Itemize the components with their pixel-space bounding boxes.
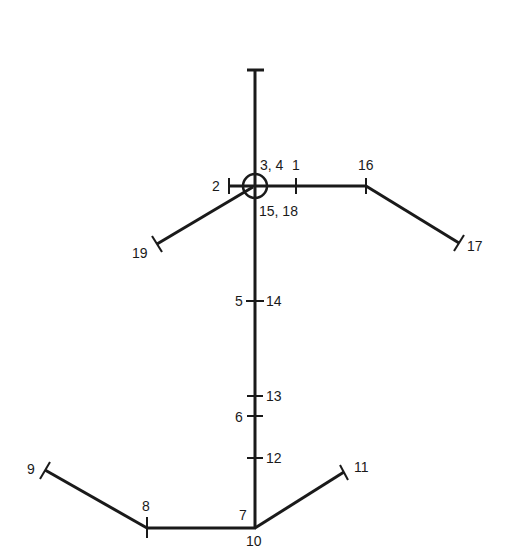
label-10: 10 <box>246 533 262 549</box>
tick-19 <box>152 236 162 252</box>
label-19: 19 <box>132 245 148 261</box>
label-12: 12 <box>266 450 282 466</box>
label-13: 13 <box>266 388 282 404</box>
label-17: 17 <box>467 238 483 254</box>
label-15-18: 15, 18 <box>259 203 298 219</box>
arm-16-17 <box>366 186 459 243</box>
label-14: 14 <box>266 293 282 309</box>
label-3-4: 3, 4 <box>260 157 284 173</box>
tick-17 <box>454 235 464 251</box>
label-2: 2 <box>212 178 220 194</box>
label-9: 9 <box>27 461 35 477</box>
label-7: 7 <box>239 507 247 523</box>
label-8: 8 <box>142 498 150 514</box>
stick-figure-diagram: 3, 4 1 16 2 15, 18 17 19 5 14 13 6 12 9 … <box>0 0 505 549</box>
label-5: 5 <box>235 293 243 309</box>
label-16: 16 <box>358 157 374 173</box>
label-1: 1 <box>292 157 300 173</box>
leg-8-9 <box>45 470 147 528</box>
label-11: 11 <box>354 459 369 475</box>
label-6: 6 <box>235 409 243 425</box>
leg-10-11 <box>255 472 344 528</box>
arm-15-19 <box>157 187 253 244</box>
